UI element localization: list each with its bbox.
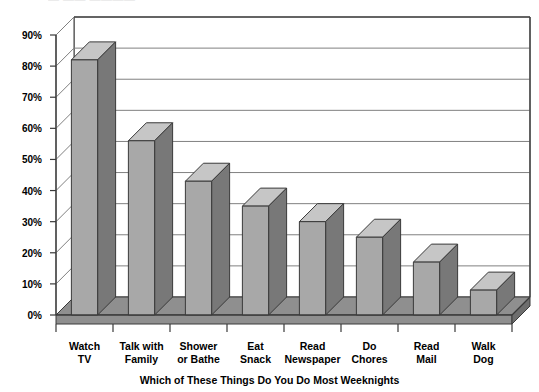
bar-5 bbox=[356, 219, 400, 315]
x-axis-category-label-5: DoChores bbox=[341, 340, 398, 366]
category-label-line: Eat bbox=[227, 340, 284, 353]
category-label-line: or Bathe bbox=[170, 353, 227, 366]
chart-container: — —— ———— 90%80%70%60%50%40%30%20%10%0% … bbox=[0, 0, 539, 392]
category-label-line: Read bbox=[398, 340, 455, 353]
bar-3 bbox=[242, 188, 286, 315]
y-axis-tick-label: 20% bbox=[8, 247, 42, 258]
x-axis-category-labels: WatchTVTalk withFamilyShoweror BatheEatS… bbox=[56, 340, 512, 366]
category-label-line: Read bbox=[284, 340, 341, 353]
bar-1 bbox=[128, 123, 172, 315]
category-label-line: Chores bbox=[341, 353, 398, 366]
category-label-line: Snack bbox=[227, 353, 284, 366]
y-axis-tick-label: 80% bbox=[8, 61, 42, 72]
y-axis-tick-label: 40% bbox=[8, 185, 42, 196]
x-axis-title: Which of These Things Do You Do Most Wee… bbox=[0, 374, 539, 386]
category-label-line: Do bbox=[341, 340, 398, 353]
y-axis-tick-label: 70% bbox=[8, 92, 42, 103]
chart-floor bbox=[56, 297, 530, 324]
category-label-line: Dog bbox=[455, 353, 512, 366]
y-axis-tick-label: 0% bbox=[8, 310, 42, 321]
category-label-line: Walk bbox=[455, 340, 512, 353]
category-label-line: TV bbox=[56, 353, 113, 366]
chart-walls bbox=[56, 17, 530, 315]
x-axis-category-label-2: Showeror Bathe bbox=[170, 340, 227, 366]
bar-2 bbox=[185, 163, 229, 315]
x-axis-category-label-4: ReadNewspaper bbox=[284, 340, 341, 366]
category-label-line: Talk with bbox=[113, 340, 170, 353]
x-axis-category-label-0: WatchTV bbox=[56, 340, 113, 366]
y-axis-tick-label: 90% bbox=[8, 30, 42, 41]
category-label-line: Family bbox=[113, 353, 170, 366]
y-axis-tick-label: 60% bbox=[8, 123, 42, 134]
y-axis-tick-label: 10% bbox=[8, 278, 42, 289]
category-label-line: Shower bbox=[170, 340, 227, 353]
bar-chart-plot: 90%80%70%60%50%40%30%20%10%0% WatchTVTal… bbox=[0, 0, 539, 392]
category-label-line: Watch bbox=[56, 340, 113, 353]
y-axis-tick-label: 50% bbox=[8, 154, 42, 165]
category-label-line: Newspaper bbox=[284, 353, 341, 366]
x-axis-category-label-7: WalkDog bbox=[455, 340, 512, 366]
bar-0 bbox=[71, 42, 115, 315]
x-axis-category-label-1: Talk withFamily bbox=[113, 340, 170, 366]
x-axis-category-label-6: ReadMail bbox=[398, 340, 455, 366]
bar-4 bbox=[299, 204, 343, 315]
x-axis-category-label-3: EatSnack bbox=[227, 340, 284, 366]
chart-svg bbox=[0, 0, 539, 392]
category-label-line: Mail bbox=[398, 353, 455, 366]
y-axis-tick-label: 30% bbox=[8, 216, 42, 227]
